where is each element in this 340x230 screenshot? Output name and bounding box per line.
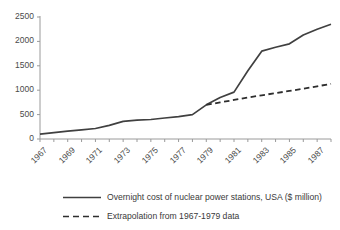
chart-axes	[37, 16, 331, 142]
chart-series	[40, 24, 331, 134]
y-tick-label: 1000	[0, 84, 34, 94]
y-tick-label: 0	[0, 133, 34, 143]
legend-item-series-2: Extrapolation from 1967-1979 data	[62, 211, 239, 221]
y-tick-label: 2500	[0, 11, 34, 21]
y-tick-label: 2000	[0, 35, 34, 45]
y-tick-label: 1500	[0, 60, 34, 70]
legend-item-series-1: Overnight cost of nuclear power stations…	[62, 192, 322, 202]
legend-label-series-1: Overnight cost of nuclear power stations…	[107, 192, 322, 202]
series-line-2	[206, 84, 331, 105]
series-line-1	[40, 24, 331, 134]
legend-label-series-2: Extrapolation from 1967-1979 data	[107, 211, 239, 221]
chart-container: 05001000150020002500 1967196919711973197…	[0, 0, 340, 230]
y-tick-label: 500	[0, 109, 34, 119]
legend-swatch-dashed-icon	[62, 212, 102, 221]
legend-swatch-solid-icon	[62, 193, 102, 202]
